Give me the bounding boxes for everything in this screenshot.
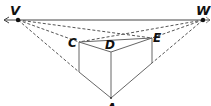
vanishing-lines-v bbox=[18, 20, 152, 72]
label-w: W bbox=[196, 3, 211, 18]
label-a: A bbox=[106, 101, 116, 106]
perspective-diagram: V W C D E A bbox=[0, 0, 211, 106]
vanishing-point-v bbox=[16, 18, 20, 22]
label-c: C bbox=[68, 36, 77, 50]
box-edges bbox=[79, 38, 152, 98]
point-a bbox=[110, 97, 112, 99]
label-e: E bbox=[153, 31, 162, 45]
vanishing-point-w bbox=[201, 18, 205, 22]
label-v: V bbox=[10, 3, 21, 18]
label-d: D bbox=[105, 38, 115, 52]
